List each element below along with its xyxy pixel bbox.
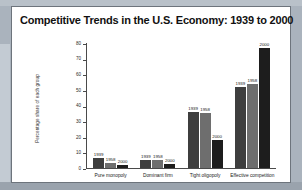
bar: 1939 [235,87,246,168]
y-tick-label: 20 [76,135,81,140]
bar-group: 193919582000 [134,43,181,168]
y-tick-label: 60 [76,72,81,77]
plot-area: Percentage share of each group 010203040… [12,34,292,184]
x-category-label: Pure monopoly [87,173,134,178]
bar-year-label: 1958 [106,158,116,163]
bar-groups: 1939195820001939195820001939195820001939… [87,43,276,168]
bar-group: 193919582000 [229,43,276,168]
bar-year-label: 1939 [235,82,245,87]
bar-group: 193919582000 [87,43,134,168]
y-axis-title: Percentage share of each group [35,57,40,161]
bar: 1939 [93,158,104,168]
y-tick-30: 30 [83,122,86,123]
y-tick-label: 70 [76,56,81,61]
y-tick-10: 10 [83,153,86,154]
y-tick-label: 10 [76,150,81,155]
chart-title: Competitive Trends in the U.S. Economy: … [20,14,293,26]
x-axis-category-labels: Pure monopolyDominant firmTight oligopol… [87,173,276,178]
bar: 2000 [164,164,175,168]
bar-year-label: 1939 [94,153,104,158]
y-tick-0: 0 [83,169,86,170]
backdrop-band-left [0,44,10,190]
x-category-label: Effective competition [229,173,276,178]
bar: 2000 [259,48,270,168]
y-tick-label: 50 [76,88,81,93]
x-category-label: Dominant firm [134,173,181,178]
y-tick-50: 50 [83,91,86,92]
bar-year-label: 2000 [212,135,222,140]
bar: 1939 [140,160,151,168]
bar-year-label: 2000 [259,43,269,48]
bar: 2000 [117,165,128,168]
x-axis-line [86,168,276,169]
bar: 1958 [152,160,163,168]
bar-group: 193919582000 [182,43,229,168]
y-tick-20: 20 [83,138,86,139]
y-tick-80: 80 [83,44,86,45]
bar-year-label: 1958 [247,79,257,84]
y-tick-label: 0 [78,166,81,171]
bar: 1958 [200,113,211,168]
y-tick-40: 40 [83,107,86,108]
bar-year-label: 2000 [118,160,128,165]
bar-year-label: 1958 [200,108,210,113]
y-tick-70: 70 [83,60,86,61]
plot-canvas: 01020304050607080 1939195820001939195820… [86,43,276,169]
y-tick-label: 40 [76,103,81,108]
y-tick-label: 30 [76,119,81,124]
bar-year-label: 1939 [141,155,151,160]
chart-figure: Competitive Trends in the U.S. Economy: … [11,6,291,183]
bar: 1958 [105,163,116,168]
y-tick-label: 80 [76,41,81,46]
bar: 1939 [188,112,199,168]
bar: 2000 [212,140,223,168]
x-category-label: Tight oligopoly [182,173,229,178]
y-tick-60: 60 [83,75,86,76]
bar-year-label: 2000 [165,159,175,164]
bar: 1958 [247,84,258,168]
bar-year-label: 1958 [153,155,163,160]
bar-year-label: 1939 [188,107,198,112]
